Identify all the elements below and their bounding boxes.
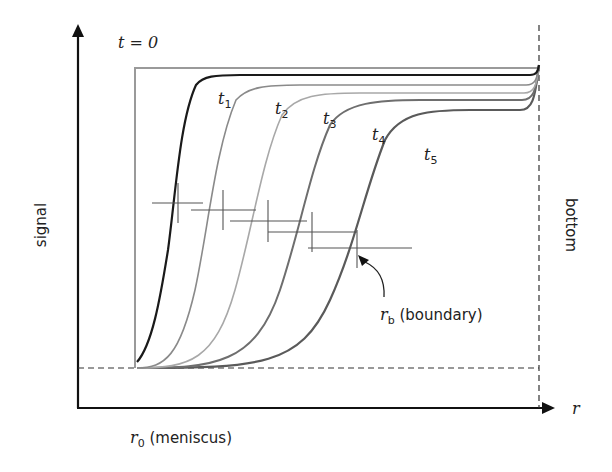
curve-label-t5: t5 [424, 145, 437, 167]
right-axis-label: bottom [562, 198, 580, 252]
curve-label-t3: t3 [323, 109, 336, 131]
diagram-canvas: signal bottom r t = 0 t1 t2 t3 t4 t5 r0 … [0, 0, 612, 472]
x-axis-label: r [572, 399, 581, 418]
curve-label-t4: t4 [372, 125, 385, 147]
t0-label: t = 0 [118, 33, 158, 52]
boundary-label: rb (boundary) [380, 305, 483, 327]
sedimentation-boundary-diagram: signal bottom r t = 0 t1 t2 t3 t4 t5 r0 … [0, 0, 612, 472]
meniscus-label: r0 (meniscus) [130, 428, 232, 450]
y-axis-label: signal [32, 203, 50, 247]
axes [72, 24, 555, 414]
midpoint-markers [152, 183, 412, 268]
curve-label-t1: t1 [218, 89, 231, 111]
boundary-arrow-icon [358, 255, 369, 266]
y-axis-arrow-icon [72, 24, 84, 37]
x-axis-arrow-icon [542, 402, 555, 414]
boundary-pointer [365, 262, 384, 297]
curve-label-t2: t2 [275, 99, 288, 121]
